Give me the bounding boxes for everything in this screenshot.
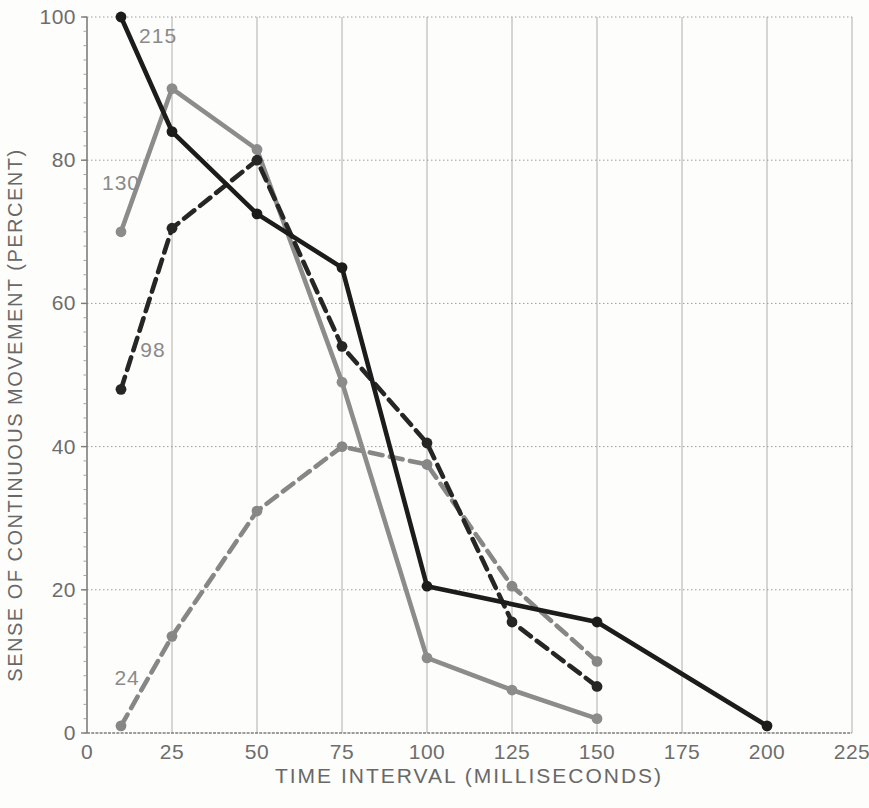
series-130-point: [167, 83, 178, 94]
grid-lines: [87, 17, 852, 733]
axes: [81, 17, 852, 733]
x-tick-label-25: 25: [160, 740, 184, 763]
series-24-point: [252, 506, 263, 517]
series-98-point: [422, 438, 433, 449]
line-chart: 0204060801000255075100125150175200225 24…: [0, 0, 869, 808]
y-axis-title: SENSE OF CONTINUOUS MOVEMENT (PERCENT): [4, 148, 26, 681]
series-215-point: [422, 581, 433, 592]
series-24-point: [592, 656, 603, 667]
series-130-line: [121, 89, 597, 719]
series-98-point: [167, 223, 178, 234]
series-98-point: [507, 617, 518, 628]
series-215-point: [252, 209, 263, 220]
series-24-point: [116, 720, 127, 731]
x-tick-label-100: 100: [409, 740, 446, 763]
y-tick-label-40: 40: [52, 435, 76, 458]
series-130-point: [116, 226, 127, 237]
y-tick-label-80: 80: [52, 148, 76, 171]
series-24-line: [121, 447, 597, 726]
series-130-point: [592, 713, 603, 724]
series-215-point: [337, 262, 348, 273]
series-215-point: [592, 617, 603, 628]
x-tick-label-175: 175: [664, 740, 701, 763]
series-labels: 2413098215: [102, 24, 177, 689]
series-24-point: [507, 581, 518, 592]
y-tick-label-20: 20: [52, 578, 76, 601]
y-tick-label-0: 0: [64, 721, 76, 744]
y-tick-label-60: 60: [52, 291, 76, 314]
series-98-point: [116, 384, 127, 395]
series-24-point: [422, 459, 433, 470]
series-215-point: [116, 12, 127, 23]
series-label-98: 98: [140, 338, 165, 361]
x-tick-label-75: 75: [330, 740, 354, 763]
series-98-point: [252, 155, 263, 166]
x-tick-label-50: 50: [245, 740, 269, 763]
x-tick-label-150: 150: [579, 740, 616, 763]
series-130-point: [337, 377, 348, 388]
series-24: [116, 441, 603, 731]
series-130-point: [422, 652, 433, 663]
series-24-point: [167, 631, 178, 642]
y-tick-label-100: 100: [39, 5, 76, 28]
series-130-point: [252, 144, 263, 155]
x-axis-title: TIME INTERVAL (MILLISECONDS): [275, 764, 663, 787]
x-tick-label-0: 0: [81, 740, 93, 763]
series-label-215: 215: [139, 24, 177, 47]
x-tick-label-200: 200: [749, 740, 786, 763]
series-130: [116, 83, 603, 724]
x-tick-label-125: 125: [494, 740, 531, 763]
series-label-130: 130: [102, 171, 140, 194]
scanned-figure-page: 0204060801000255075100125150175200225 24…: [0, 0, 869, 808]
series-98-point: [592, 681, 603, 692]
x-tick-label-225: 225: [834, 740, 869, 763]
data-series: [116, 12, 773, 732]
series-24-point: [337, 441, 348, 452]
series-215-point: [167, 126, 178, 137]
series-label-24: 24: [114, 666, 139, 689]
series-215-point: [762, 720, 773, 731]
series-130-point: [507, 685, 518, 696]
series-98-point: [337, 341, 348, 352]
